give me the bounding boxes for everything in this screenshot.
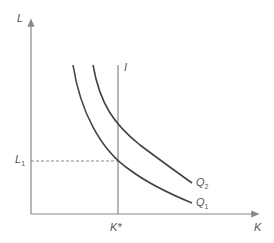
q1-label: Q1 xyxy=(196,197,208,210)
y-axis-label: L xyxy=(17,13,23,24)
isoquant-diagram xyxy=(0,0,274,243)
k-star-label: K* xyxy=(110,222,122,233)
l1-label: L1 xyxy=(15,154,25,167)
x-axis-label: K xyxy=(254,222,261,233)
q2-label: Q2 xyxy=(196,177,208,190)
vertical-line-label: I xyxy=(124,62,127,73)
isoquant-q1 xyxy=(73,65,192,203)
isoquant-q2 xyxy=(93,65,192,183)
